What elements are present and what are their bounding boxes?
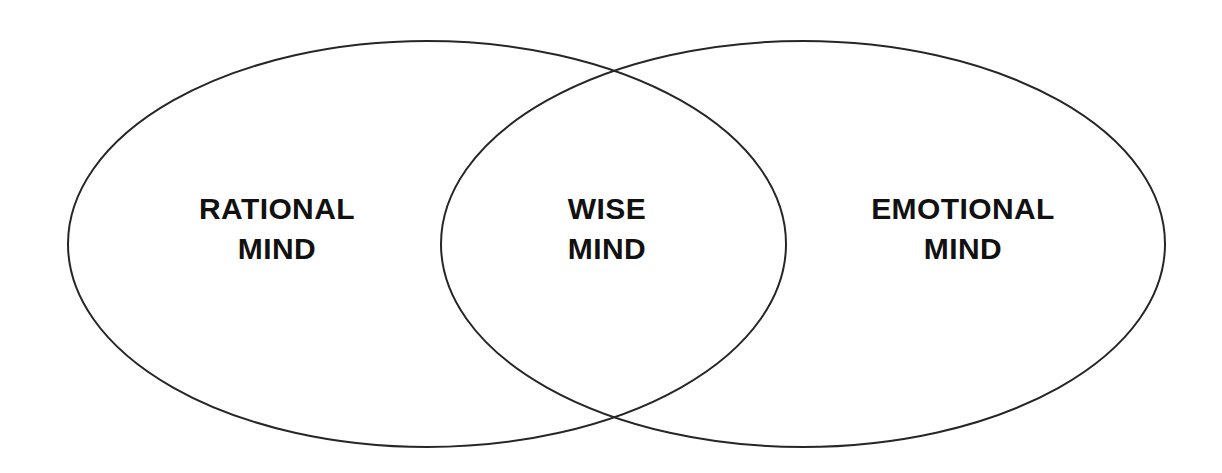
emotional-mind-ellipse xyxy=(441,41,1165,447)
emotional-mind-label-line2: MIND xyxy=(871,229,1055,269)
region-label-rational-mind: RATIONAL MIND xyxy=(199,189,355,269)
rational-mind-ellipse xyxy=(68,41,786,447)
region-label-wise-mind: WISE MIND xyxy=(568,189,646,269)
region-label-emotional-mind: EMOTIONAL MIND xyxy=(871,189,1055,269)
rational-mind-label-line2: MIND xyxy=(199,229,355,269)
wise-mind-label-line1: WISE xyxy=(568,189,646,229)
venn-diagram-canvas: RATIONAL MIND WISE MIND EMOTIONAL MIND xyxy=(0,0,1222,473)
emotional-mind-label-line1: EMOTIONAL xyxy=(871,189,1055,229)
rational-mind-label-line1: RATIONAL xyxy=(199,189,355,229)
wise-mind-label-line2: MIND xyxy=(568,229,646,269)
